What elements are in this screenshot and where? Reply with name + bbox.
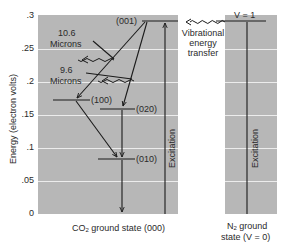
transfer-line3: transfer — [180, 48, 226, 58]
transfer-line2: energy — [180, 38, 226, 48]
emission-10-6-unit: Microns — [50, 39, 82, 49]
emission-10-6-value: 10.6 — [58, 28, 76, 38]
n2-caption-line2: state (V = 0) — [221, 232, 270, 242]
co2-caption: CO2 ground state (000) — [72, 223, 165, 235]
emission-9-6-value: 9.6 — [60, 65, 73, 75]
n2-level-label: V = 1 — [234, 10, 255, 20]
emission-9-6-unit: Microns — [50, 76, 82, 86]
level-label-001: (001) — [116, 16, 137, 26]
co2-excitation-label: Excitation — [167, 129, 177, 168]
level-label-100: (100) — [91, 95, 112, 105]
n2-excitation-label: Excitation — [250, 129, 260, 168]
level-label-020: (020) — [136, 104, 157, 114]
energy-diagram-lines — [0, 0, 289, 243]
transfer-line1: Vibrational — [180, 28, 226, 38]
level-label-010: (010) — [136, 154, 157, 164]
